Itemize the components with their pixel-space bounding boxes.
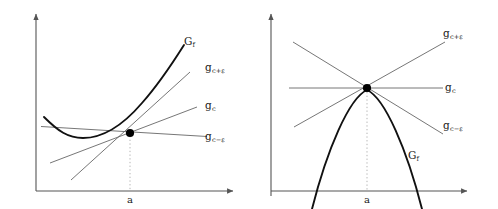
line-label-g-c-plus-eps: gc+ε [205, 62, 225, 73]
curve-label-gf: Gf [408, 150, 419, 161]
curve-label-gf: Gf [184, 36, 195, 47]
x-tick-label-a: a [127, 195, 133, 205]
line-label-g-c: gc [445, 82, 456, 93]
line-label-g-c: gc [205, 100, 216, 111]
line-label-g-c-minus-eps: gc−ε [205, 131, 225, 142]
panel-right: gc+ε gc gc−ε Gf a [249, 0, 498, 209]
figure-root: Gf gc+ε gc gc−ε a [0, 0, 498, 209]
support-line-g-c-plus-eps [71, 72, 190, 180]
panel-left: Gf gc+ε gc gc−ε a [0, 0, 249, 209]
line-label-g-c-plus-eps: gc+ε [443, 28, 463, 39]
tangency-point [363, 84, 371, 92]
function-curve-gf [44, 45, 184, 138]
x-tick-label-a: a [364, 195, 370, 205]
line-label-g-c-minus-eps: gc−ε [443, 120, 463, 131]
support-line-g-c-minus-eps-lower [294, 42, 445, 127]
tangency-point [126, 129, 134, 137]
